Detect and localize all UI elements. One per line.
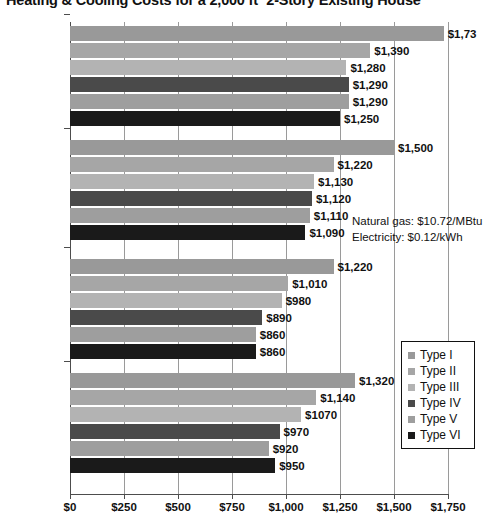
bar-row: $1,500 — [0, 140, 409, 155]
legend-item[interactable]: Type II — [408, 363, 470, 379]
bar — [70, 390, 316, 405]
bar-row: $860 — [0, 344, 409, 359]
bar — [70, 373, 355, 388]
bar — [70, 77, 349, 92]
bar-value-label: $950 — [275, 460, 305, 472]
bar-row: $970 — [0, 424, 409, 439]
bar — [70, 259, 334, 274]
x-tick-label: $500 — [165, 501, 191, 513]
bar-row: $860 — [0, 327, 409, 342]
chart-annotation: Natural gas: $10.72/MBtu — [352, 215, 482, 227]
legend-label: Type IV — [420, 395, 461, 411]
bar-row: $1,140 — [0, 390, 409, 405]
legend-item[interactable]: Type VI — [408, 427, 470, 443]
bar-value-label: $1,390 — [370, 45, 409, 57]
bar-value-label: $1,130 — [314, 176, 353, 188]
bar-value-label: $1,290 — [349, 96, 388, 108]
x-tick-mark — [178, 494, 179, 499]
bar-row: $950 — [0, 458, 409, 473]
x-tick-mark — [124, 494, 125, 499]
bar-value-label: $890 — [262, 312, 292, 324]
bar — [70, 310, 262, 325]
x-tick-mark — [448, 494, 449, 499]
bar — [70, 458, 275, 473]
legend-item[interactable]: Type III — [408, 379, 470, 395]
legend-item[interactable]: Type IV — [408, 395, 470, 411]
bar-value-label: $1,120 — [312, 193, 351, 205]
x-tick-mark — [232, 494, 233, 499]
legend-label: Type V — [420, 411, 457, 427]
y-tick-mark — [64, 128, 70, 129]
bar-value-label: $1,220 — [334, 159, 373, 171]
x-tick-label: $1,500 — [376, 501, 411, 513]
legend-swatch-icon — [408, 384, 415, 391]
chart-title: Heating & Cooling Costs for a 2,000 ft² … — [6, 0, 487, 8]
bar-value-label: $920 — [269, 443, 299, 455]
bar-row: $1,250 — [0, 111, 409, 126]
bar-group: NorthCentral$1,500$1,220$1,130$1,120$1,1… — [0, 140, 409, 240]
bar-value-label: $980 — [282, 295, 312, 307]
bar-value-label: $1,290 — [349, 79, 388, 91]
bar-value-label: $1,220 — [334, 261, 373, 273]
x-tick-mark — [286, 494, 287, 499]
chart-annotation: Electricity: $0.12/kWh — [352, 231, 463, 243]
bar-value-label: $1,73 — [444, 28, 477, 40]
legend-swatch-icon — [408, 432, 415, 439]
bar — [70, 191, 312, 206]
bar-row: $920 — [0, 441, 409, 456]
bar — [70, 43, 370, 58]
legend-label: Type I — [420, 347, 453, 363]
bar-value-label: $1,320 — [355, 375, 394, 387]
legend-swatch-icon — [408, 400, 415, 407]
bar — [70, 344, 256, 359]
bar-value-label: $1,090 — [305, 227, 344, 239]
bar-row: $1,280 — [0, 60, 409, 75]
bar — [70, 424, 280, 439]
legend: Type IType IIType IIIType IVType VType V… — [401, 341, 475, 449]
bar — [70, 407, 301, 422]
y-tick-mark — [64, 247, 70, 248]
bar — [70, 174, 314, 189]
bar-row: $1070 — [0, 407, 409, 422]
bar-row: $890 — [0, 310, 409, 325]
bar — [70, 225, 305, 240]
bar-value-label: $1,110 — [310, 210, 349, 222]
bar — [70, 208, 310, 223]
bar-value-label: $1,500 — [394, 142, 433, 154]
bar-value-label: $1,280 — [346, 62, 385, 74]
legend-label: Type III — [420, 379, 459, 395]
bar — [70, 94, 349, 109]
bar-row: $1,290 — [0, 94, 409, 109]
legend-swatch-icon — [408, 352, 415, 359]
bar-row: $980 — [0, 293, 409, 308]
bar-row: $1,320 — [0, 373, 409, 388]
x-tick-label: $1,000 — [268, 501, 303, 513]
x-tick-mark — [340, 494, 341, 499]
x-tick-label: $250 — [111, 501, 137, 513]
bar — [70, 157, 334, 172]
bar-row: $1,130 — [0, 174, 409, 189]
legend-label: Type II — [420, 363, 456, 379]
legend-label: Type VI — [420, 427, 461, 443]
bar-row: $1,290 — [0, 77, 409, 92]
bar-row: $1,220 — [0, 157, 409, 172]
legend-item[interactable]: Type V — [408, 411, 470, 427]
legend-swatch-icon — [408, 368, 415, 375]
legend-item[interactable]: Type I — [408, 347, 470, 363]
bar-row: $1,010 — [0, 276, 409, 291]
bar — [70, 60, 346, 75]
bar — [70, 293, 282, 308]
bar — [70, 327, 256, 342]
legend-swatch-icon — [408, 416, 415, 423]
y-tick-mark — [64, 361, 70, 362]
bar-group: SouthCentral$1,220$1,010$980$890$860$860 — [0, 259, 409, 359]
bar — [70, 441, 269, 456]
x-axis-line — [70, 494, 449, 495]
bar-group: Southern$1,320$1,140$1070$970$920$950 — [0, 373, 409, 473]
bar — [70, 111, 340, 126]
bar — [70, 140, 394, 155]
bar-row: $1,090 — [0, 225, 409, 240]
bar-row: $1,73 — [0, 26, 409, 41]
bar-value-label: $970 — [280, 426, 310, 438]
